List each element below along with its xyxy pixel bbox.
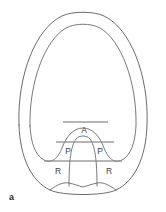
outer-contour-path <box>19 12 147 194</box>
label-a-apex: A <box>81 125 87 135</box>
label-r-right: R <box>106 166 112 176</box>
panel-caption: a <box>9 193 14 202</box>
inner-contour-path <box>30 24 136 161</box>
figure-panel: A P P R R a <box>0 0 166 212</box>
label-p-left: P <box>65 146 71 156</box>
label-p-right: P <box>97 146 103 156</box>
anatomical-cross-section-diagram: A P P R R <box>0 0 166 212</box>
basal-curve-path <box>50 183 116 190</box>
label-r-left: R <box>55 166 61 176</box>
